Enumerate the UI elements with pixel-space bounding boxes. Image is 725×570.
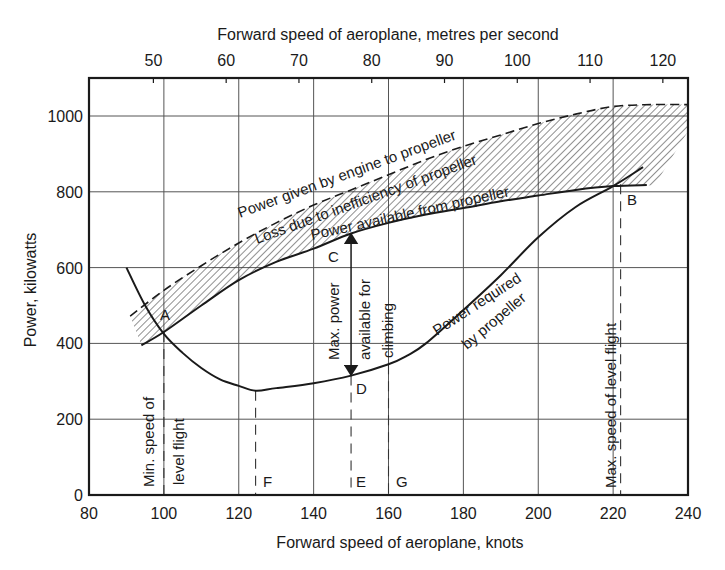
svg-text:800: 800 <box>56 184 83 201</box>
svg-text:180: 180 <box>450 505 477 522</box>
x-axis-ticks: 80100120140160180200220240 <box>80 505 701 522</box>
svg-text:200: 200 <box>525 505 552 522</box>
bottom-axis-title: Forward speed of aeroplane, knots <box>276 534 523 551</box>
svg-text:90: 90 <box>436 52 454 69</box>
svg-text:600: 600 <box>56 260 83 277</box>
top-axis-title: Forward speed of aeroplane, metres per s… <box>217 26 559 43</box>
svg-text:100: 100 <box>504 52 531 69</box>
svg-text:400: 400 <box>56 335 83 352</box>
svg-text:60: 60 <box>217 52 235 69</box>
point-e-label: E <box>356 473 366 490</box>
svg-text:120: 120 <box>649 52 676 69</box>
point-c-label: C <box>328 248 339 265</box>
point-a-label: A <box>160 306 170 323</box>
svg-text:100: 100 <box>151 505 178 522</box>
svg-text:140: 140 <box>300 505 327 522</box>
point-g-label: G <box>396 473 408 490</box>
y-axis-title: Power, kilowatts <box>22 233 39 348</box>
svg-text:50: 50 <box>144 52 162 69</box>
min-speed-label-line1: Min. speed of <box>140 396 157 487</box>
point-d-label: D <box>356 380 367 397</box>
svg-text:80: 80 <box>80 505 98 522</box>
y-axis-ticks: 02004006008001000 <box>47 108 83 504</box>
point-b-label: B <box>627 191 637 208</box>
max-speed-label: Max. speed of level flight <box>602 322 619 488</box>
svg-text:70: 70 <box>290 52 308 69</box>
point-f-label: F <box>263 473 272 490</box>
power-speed-chart: 80100120140160180200220240 5060708090100… <box>0 0 725 570</box>
svg-text:0: 0 <box>74 487 83 504</box>
svg-text:240: 240 <box>675 505 702 522</box>
svg-text:200: 200 <box>56 411 83 428</box>
max-power-label-line2: available for <box>356 279 373 360</box>
svg-text:1000: 1000 <box>47 108 83 125</box>
svg-text:120: 120 <box>225 505 252 522</box>
max-power-label-line1: Max. power <box>325 282 342 360</box>
svg-text:160: 160 <box>375 505 402 522</box>
svg-text:110: 110 <box>577 52 603 69</box>
min-speed-label-line2: level flight <box>170 417 187 485</box>
max-power-label-line3: climbing <box>379 303 396 358</box>
svg-text:80: 80 <box>363 52 381 69</box>
svg-text:220: 220 <box>600 505 627 522</box>
